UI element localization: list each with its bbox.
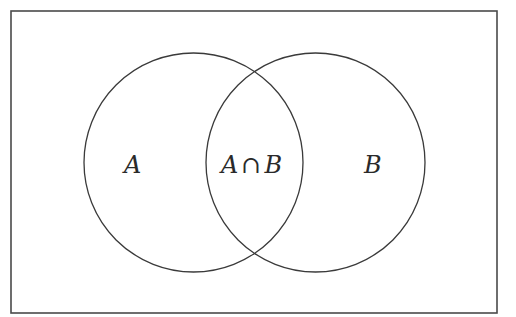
venn-diagram: A A∩B B (0, 0, 516, 317)
label-intersection-a: A (219, 151, 238, 179)
set-b-circle (206, 53, 425, 272)
label-b-only: B (363, 151, 382, 179)
intersection-symbol: ∩ (241, 151, 261, 179)
label-intersection: A∩B (219, 151, 282, 179)
label-a-only: A (122, 151, 141, 179)
label-intersection-b: B (263, 151, 282, 179)
